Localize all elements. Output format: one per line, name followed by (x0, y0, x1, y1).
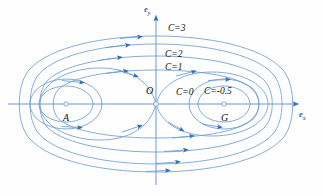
arrow-bottom-c3 (146, 171, 168, 172)
arrow-inner-g-top (208, 80, 228, 81)
contour-label-c2: C=2 (165, 50, 183, 60)
arrow-inner-a-bottom (62, 127, 80, 128)
contour-label-cneg05: C=-0.5 (204, 87, 232, 97)
point-marker-o (154, 102, 159, 107)
contour-label-c3: C=3 (168, 24, 186, 34)
arrow-sep-right-bottom (168, 122, 182, 130)
contour-label-c1: C=1 (165, 63, 183, 73)
point-label-a: A (63, 113, 69, 123)
arrow-top-c2 (106, 45, 128, 48)
axes-group (8, 18, 296, 185)
origin-label: O (146, 86, 153, 96)
phase-portrait-svg (0, 0, 323, 196)
point-marker-a (64, 102, 68, 106)
point-marker-g (222, 102, 226, 106)
point-label-g: G (221, 113, 228, 123)
arrow-sep-left-bottom (122, 126, 140, 132)
y-axis-label-sub: y (148, 10, 151, 16)
y-axis-label: ey (144, 5, 150, 16)
arrow-top-c2b (98, 58, 120, 61)
x-axis-label-sub: x (303, 115, 306, 121)
phase-portrait-figure: C=3 C=2 C=1 C=0 C=-0.5 O A G ey ex (0, 0, 323, 196)
x-axis-label: ex (299, 110, 306, 121)
contour-label-c0: C=0 (176, 88, 194, 98)
arrow-inner-g-bottom (202, 124, 220, 127)
